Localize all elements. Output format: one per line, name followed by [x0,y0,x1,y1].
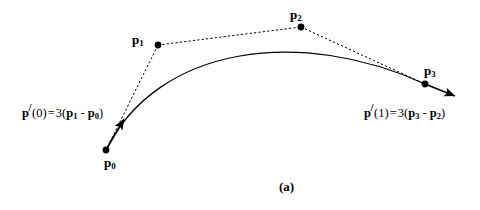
control-polygon-segment-p0-p1 [106,45,158,150]
eq0-term-b-base: p [88,106,95,120]
eq0-coefficient: 3 [56,106,62,120]
control-point-label-p2: p2 [290,8,302,21]
control-polygon-group [106,27,425,150]
bezier-figure: p0 p1 p2 p3 p/(0) = 3(p1 - p0) p/(1) = 3… [0,0,480,210]
tangent-vector-end-arrow [425,84,455,96]
equation-derivative-at-0: p/(0) = 3(p1 - p0) [22,103,103,120]
equation-derivative-at-1: p/(1) = 3(p3 - p2) [364,103,445,120]
bezier-curve [106,52,425,150]
eq0-prime: / [28,101,31,113]
eq1-term-b-sub: 2 [437,111,441,121]
control-point-label-p3-sub: 3 [431,69,436,79]
eq1-operator: - [423,106,427,120]
control-point-label-p0-sub: 0 [111,161,116,171]
control-point-label-p0: p0 [104,156,116,169]
eq1-term-a-sub: 3 [415,111,419,121]
eq1-equals: = [390,106,397,120]
control-point-dot-p3 [422,81,429,88]
control-point-label-p1: p1 [132,33,144,46]
tangent-vector-start-arrow [106,119,124,150]
control-point-label-p1-sub: 1 [139,38,144,48]
eq0-operator: - [81,106,85,120]
control-polygon-segment-p1-p2 [158,27,301,45]
control-point-label-p3: p3 [424,64,436,77]
eq1-prime: / [370,101,373,113]
eq0-equals: = [48,106,55,120]
control-point-dot-p2 [298,24,305,31]
eq0-term-b-sub: 0 [95,111,99,121]
eq0-term-a-sub: 1 [73,111,77,121]
control-point-dot-p1 [155,42,162,49]
figure-caption: (a) [279,180,294,193]
eq1-coefficient: 3 [398,106,404,120]
control-point-label-p2-sub: 2 [297,13,302,23]
eq1-term-b-base: p [430,106,437,120]
control-point-dot-p0 [103,147,110,154]
eq0-parameter: (0) [32,106,47,120]
eq1-parameter: (1) [374,106,389,120]
